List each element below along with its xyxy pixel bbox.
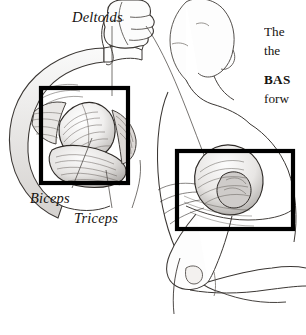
- neck-to-trapezius: [186, 80, 250, 124]
- anatomy-illustration-page: Deltoids Biceps Triceps The the BAS forw: [0, 0, 306, 335]
- label-triceps: Triceps: [74, 210, 118, 227]
- right-forearm-top: [208, 267, 306, 283]
- anatomy-figure: [0, 0, 306, 335]
- skull-back: [170, 2, 186, 80]
- deltoid-inner-head: [217, 172, 251, 208]
- body-text-line-4: forw: [264, 89, 306, 108]
- body-text-line-2: the: [264, 41, 306, 60]
- flexed-arm-drawing: [9, 0, 154, 218]
- elbow-detail: [185, 266, 202, 284]
- front-neck-line: [214, 76, 234, 100]
- paragraph-gap: [264, 60, 306, 70]
- head-profile: [186, 0, 234, 77]
- body-text-runhead: BAS: [264, 70, 306, 89]
- label-biceps: Biceps: [30, 190, 70, 207]
- leader-triceps-2: [132, 160, 141, 208]
- body-text-line-1: The: [264, 22, 306, 41]
- right-arm-inner-edge: [208, 216, 232, 282]
- body-text-column: The the BAS forw: [264, 22, 306, 108]
- label-deltoids: Deltoids: [72, 9, 123, 26]
